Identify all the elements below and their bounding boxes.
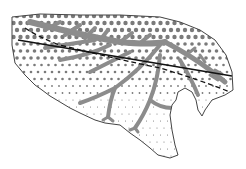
diagram-canvas (0, 0, 246, 169)
dot-pattern (8, 14, 240, 164)
